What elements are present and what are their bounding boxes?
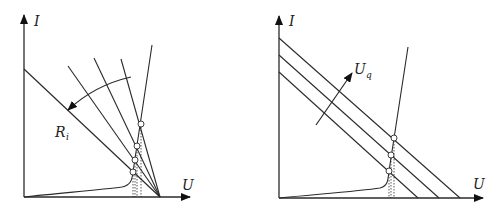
- operating-point: [134, 143, 140, 149]
- operating-point: [138, 121, 144, 127]
- operating-point: [386, 168, 392, 174]
- uq-label-sub: q: [366, 70, 372, 80]
- load-line-high: [279, 38, 460, 198]
- left-y-label: I: [33, 13, 40, 29]
- left-x-label: U: [182, 177, 195, 193]
- uq-arrow: [316, 73, 352, 125]
- right-y-label: I: [288, 13, 295, 29]
- operating-point: [130, 169, 136, 175]
- ri-arrow: [68, 77, 131, 110]
- operating-point: [391, 135, 397, 141]
- operating-point: [132, 157, 138, 163]
- right-x-label: U: [473, 176, 486, 192]
- ri-label: R: [54, 124, 66, 140]
- ri-label-sub: i: [66, 132, 69, 142]
- diagram-canvas: I U R i I U U q: [0, 0, 504, 214]
- right-plot: [279, 16, 483, 198]
- operating-point: [388, 152, 394, 158]
- load-line-1: [24, 69, 160, 197]
- left-plot: [24, 15, 190, 197]
- load-line-low: [279, 72, 418, 198]
